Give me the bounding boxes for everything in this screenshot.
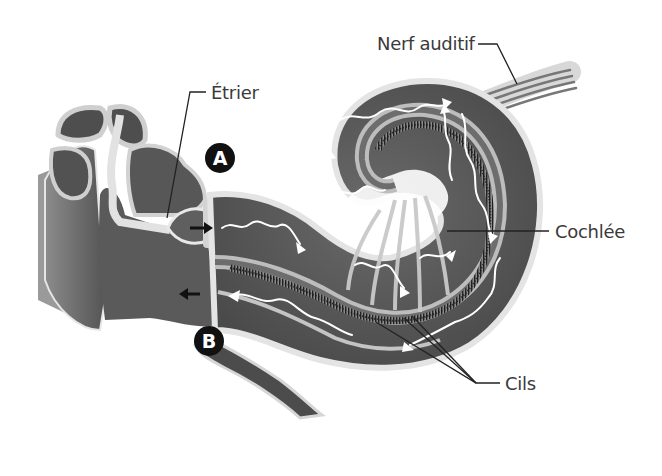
marker-b: B xyxy=(194,326,224,356)
nerf-auditif-leader xyxy=(478,44,517,84)
label-cils: Cils xyxy=(505,375,536,393)
label-etrier: Étrier xyxy=(211,84,259,102)
label-cochlee: Cochlée xyxy=(555,223,625,241)
label-nerf-auditif: Nerf auditif xyxy=(377,35,475,53)
marker-a: A xyxy=(205,143,235,173)
cochlea xyxy=(210,81,540,368)
inner-ear-diagram: Nerf auditif Étrier Cochlée Cils A B xyxy=(0,0,662,476)
